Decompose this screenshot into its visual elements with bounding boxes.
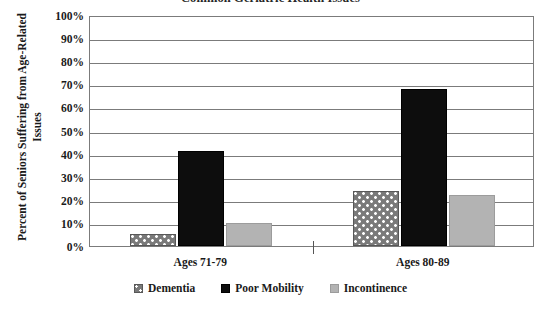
legend-label-dementia: Dementia [148,282,195,294]
bar-mobility-2 [401,89,447,246]
y-axis-tick-label: 90% [40,33,84,45]
chart-title: Common Geriatric Health Issues [0,0,541,6]
legend-swatch-incontinence [330,284,339,293]
category-axis-tick [313,241,314,254]
y-axis-tick-label: 40% [40,149,84,161]
y-axis-tick-label: 0% [40,241,84,253]
y-axis-tick-label: 10% [40,218,84,230]
y-axis-tick-label: 80% [40,56,84,68]
legend-label-incontinence: Incontinence [344,282,407,294]
bar-dementia-2 [353,191,399,246]
bar-incontinence-1 [226,223,272,246]
bar-incontinence-2 [449,195,495,246]
y-axis-tick-label: 50% [40,126,84,138]
legend-swatch-dementia [134,284,143,293]
legend-item-dementia[interactable]: Dementia [134,282,195,294]
bars-layer [90,17,533,246]
chart-container: Common Geriatric Health Issues Percent o… [0,0,541,309]
legend-label-mobility: Poor Mobility [235,282,303,294]
category-label: Ages 80-89 [396,256,449,268]
y-axis-tick-label: 100% [40,10,84,22]
legend-swatch-mobility [221,284,230,293]
legend-item-mobility[interactable]: Poor Mobility [221,282,303,294]
plot-area [89,16,534,247]
category-label: Ages 71-79 [174,256,227,268]
y-axis-tick-label: 60% [40,102,84,114]
bar-dementia-1 [130,234,176,246]
chart-legend: DementiaPoor MobilityIncontinence [0,282,541,294]
legend-item-incontinence[interactable]: Incontinence [330,282,407,294]
bar-mobility-1 [178,151,224,246]
y-axis-tick-label: 30% [40,172,84,184]
y-axis-tick-label: 20% [40,195,84,207]
y-axis-tick-label: 70% [40,79,84,91]
y-axis-tick-labels: 100%90%80%70%60%50%40%30%20%10%0% [40,16,84,247]
